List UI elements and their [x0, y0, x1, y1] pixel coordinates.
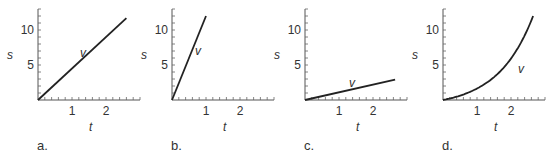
curve-label: v	[518, 62, 525, 76]
panel-c: 12510tsvc.	[274, 9, 407, 153]
x-tick-label: 1	[69, 104, 76, 118]
x-axis-title: t	[223, 120, 227, 134]
panel-label: d.	[442, 138, 453, 153]
y-tick-label: 10	[288, 23, 302, 37]
x-tick-label: 2	[370, 104, 377, 118]
y-tick-label: 5	[27, 58, 34, 72]
x-tick-label: 1	[474, 104, 481, 118]
panel-label: c.	[304, 138, 314, 153]
y-tick-label: 10	[155, 23, 169, 37]
x-tick-label: 2	[103, 104, 110, 118]
y-axis-title: s	[7, 48, 13, 62]
curve-v	[172, 16, 206, 100]
y-tick-label: 10	[426, 23, 440, 37]
curve-label: v	[80, 46, 87, 60]
y-axis-title: s	[274, 48, 280, 62]
x-tick-label: 2	[237, 104, 244, 118]
x-axis-title: t	[494, 120, 498, 134]
panel-b: 12510tsvb.	[141, 9, 274, 153]
y-axis-title: s	[412, 48, 418, 62]
x-axis-title: t	[356, 120, 360, 134]
x-tick-label: 1	[336, 104, 343, 118]
y-tick-label: 10	[21, 23, 35, 37]
panel-label: a.	[37, 138, 48, 153]
x-tick-label: 1	[203, 104, 210, 118]
panel-d: 12510tsvd.	[412, 9, 545, 153]
curve-label: v	[195, 44, 202, 58]
panel-a: 12510tsva.	[7, 9, 140, 153]
x-axis-title: t	[89, 120, 93, 134]
x-tick-label: 2	[508, 104, 515, 118]
y-tick-label: 5	[294, 58, 301, 72]
panel-label: b.	[171, 138, 182, 153]
y-axis-title: s	[141, 48, 147, 62]
curve-label: v	[349, 76, 356, 90]
y-tick-label: 5	[161, 58, 168, 72]
y-tick-label: 5	[432, 58, 439, 72]
curve-v	[443, 16, 533, 100]
figure: 12510tsva.12510tsvb.12510tsvc.12510tsvd.	[0, 0, 557, 157]
